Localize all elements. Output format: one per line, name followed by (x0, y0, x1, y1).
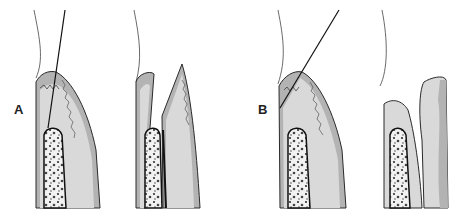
diagram-svg (0, 0, 461, 218)
panel-b-after (380, 10, 448, 208)
panel-b-before (278, 10, 346, 208)
panel-label-a: A (14, 102, 23, 117)
panel-a-before (34, 10, 100, 208)
panel-label-b: B (258, 102, 267, 117)
panel-a-after (134, 10, 200, 208)
periodontal-diagram: A B (0, 0, 461, 218)
